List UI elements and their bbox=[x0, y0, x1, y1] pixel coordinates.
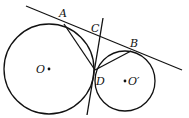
center-dot-O-prime bbox=[124, 80, 127, 83]
label-O: O bbox=[36, 63, 45, 76]
geometry-diagram: A B C D O O′ bbox=[0, 0, 189, 118]
label-B: B bbox=[129, 37, 138, 50]
label-A: A bbox=[58, 7, 67, 20]
center-dot-O bbox=[48, 68, 51, 71]
label-O-prime: O′ bbox=[128, 75, 140, 88]
label-D: D bbox=[95, 75, 105, 88]
label-C: C bbox=[91, 22, 100, 35]
